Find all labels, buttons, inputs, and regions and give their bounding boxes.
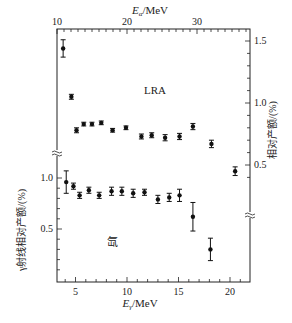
- svg-text:1.0: 1.0: [254, 97, 267, 108]
- data-point: [163, 136, 167, 140]
- data-point: [110, 128, 114, 132]
- svg-text:10: 10: [122, 286, 132, 297]
- svg-text:10: 10: [52, 16, 62, 27]
- lra-series: [61, 40, 238, 176]
- axis-ticks: [57, 29, 250, 282]
- data-point: [208, 247, 212, 251]
- data-point: [120, 189, 124, 193]
- chart-figure: 51015201020300.51.00.51.01.5 Eα/MeV Eγ/M…: [0, 0, 292, 323]
- data-point: [177, 193, 181, 197]
- svg-text:1.0: 1.0: [41, 172, 54, 183]
- data-point: [82, 122, 86, 126]
- data-point: [191, 124, 195, 128]
- right-axis-break-icon: [245, 212, 255, 218]
- data-point: [124, 126, 128, 130]
- xenon-annotation: 氙: [107, 235, 118, 248]
- left-axis-label: γ射线相对产额/(%): [15, 189, 28, 272]
- lra-annotation: LRA: [144, 84, 166, 96]
- xenon-series: [64, 171, 213, 261]
- data-point: [61, 46, 65, 50]
- data-point: [69, 95, 73, 99]
- left-axis-break-icon: [52, 150, 62, 156]
- bottom-axis-label: Eγ/MeV: [121, 297, 157, 311]
- svg-text:1.5: 1.5: [254, 35, 267, 46]
- data-point: [90, 122, 94, 126]
- svg-text:5: 5: [73, 286, 78, 297]
- data-point: [191, 215, 195, 219]
- data-point: [131, 191, 135, 195]
- svg-text:30: 30: [192, 16, 202, 27]
- data-point: [233, 169, 237, 173]
- data-point: [139, 134, 143, 138]
- axis-tick-labels: 51015201020300.51.00.51.01.5: [41, 16, 267, 297]
- data-point: [64, 180, 68, 184]
- svg-text:15: 15: [174, 286, 184, 297]
- data-point: [74, 128, 78, 132]
- data-point: [209, 142, 213, 146]
- data-point: [77, 193, 81, 197]
- data-point: [71, 184, 75, 188]
- svg-text:0.5: 0.5: [254, 159, 267, 170]
- svg-text:0.5: 0.5: [41, 223, 54, 234]
- data-point: [156, 197, 160, 201]
- data-point: [177, 134, 181, 138]
- data-point: [150, 133, 154, 137]
- svg-text:20: 20: [122, 16, 132, 27]
- data-points: [61, 40, 238, 261]
- svg-text:20: 20: [225, 286, 235, 297]
- top-axis-label: Eα/MeV: [131, 4, 168, 18]
- plot-frame: [57, 29, 250, 282]
- data-point: [99, 121, 103, 125]
- data-point: [167, 195, 171, 199]
- data-point: [142, 190, 146, 194]
- data-point: [109, 189, 113, 193]
- data-point: [97, 193, 101, 197]
- right-axis-label: 相对产额/(%): [266, 101, 279, 159]
- data-point: [87, 188, 91, 192]
